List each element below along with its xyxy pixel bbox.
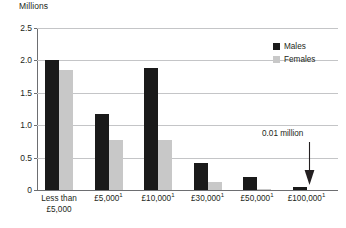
legend-label: Females (284, 55, 315, 64)
y-tick-label: 1.0 (20, 120, 32, 130)
bar-males (194, 163, 208, 190)
bar-chart: Millions 00.51.01.52.02.5 Less than£5,00… (0, 0, 346, 228)
bar-males (95, 114, 109, 190)
y-tick-label: 0.5 (20, 153, 32, 163)
chart-legend: MalesFemales (273, 41, 315, 67)
bar-group (45, 28, 73, 190)
y-tick-label: 2.0 (20, 55, 32, 65)
bar-group (194, 28, 222, 190)
legend-item: Females (273, 54, 315, 65)
bar-males (293, 187, 307, 190)
legend-item: Males (273, 41, 315, 52)
x-axis-line (37, 190, 338, 191)
bar-males (45, 60, 59, 190)
bar-females (208, 182, 222, 190)
legend-swatch (273, 56, 280, 63)
x-axis-label: £5,0001 (94, 194, 122, 205)
x-axis-label: £30,0001 (191, 194, 224, 205)
y-axis-title: Millions (19, 1, 48, 11)
bar-males (243, 177, 257, 190)
annotation-label: 0.01 million (262, 129, 303, 138)
x-axis-category-labels: Less than£5,000£5,0001£10,0001£30,0001£5… (37, 194, 338, 228)
bar-females (158, 140, 172, 190)
annotation-arrow-icon (303, 142, 316, 186)
bar-group (144, 28, 172, 190)
x-axis-label: £50,0001 (241, 194, 274, 205)
bar-females (257, 189, 271, 190)
y-tick-mark (34, 190, 37, 191)
bar-group (95, 28, 123, 190)
x-axis-label: Less than£5,000 (41, 194, 77, 215)
legend-swatch (273, 43, 280, 50)
x-axis-label: £100,0001 (288, 194, 326, 205)
bar-females (109, 140, 123, 190)
bar-group (243, 28, 271, 190)
legend-label: Males (284, 42, 306, 51)
bar-females (59, 70, 73, 190)
bar-males (144, 68, 158, 190)
x-axis-label: £10,0001 (142, 194, 175, 205)
y-tick-label: 2.5 (20, 23, 32, 33)
y-tick-label: 0 (27, 185, 32, 195)
y-tick-label: 1.5 (20, 88, 32, 98)
